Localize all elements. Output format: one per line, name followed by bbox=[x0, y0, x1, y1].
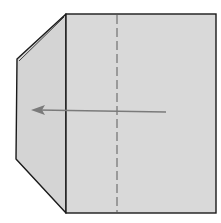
paper-square bbox=[66, 14, 216, 213]
origami-diagram bbox=[0, 0, 221, 223]
